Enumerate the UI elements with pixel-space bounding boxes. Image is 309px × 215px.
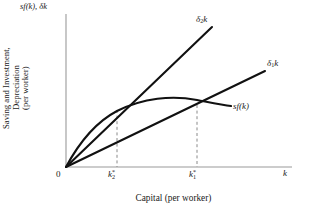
delta2-k-suffix: k bbox=[203, 14, 207, 24]
y-axis-title: Saving and Investment,Depreciation(per w… bbox=[2, 28, 16, 148]
tick-k1-affixes: *1 bbox=[193, 169, 196, 181]
origin-label: 0 bbox=[56, 169, 61, 179]
y-axis-title-line-3: (per worker) bbox=[21, 28, 31, 148]
solow-growth-chart: sf(k), δk Saving and Investment,Deprecia… bbox=[0, 0, 309, 215]
curve-label-sfk: sf(k) bbox=[233, 101, 249, 111]
curve-label-delta2-k: δ2k bbox=[196, 14, 207, 25]
x-tick-label-k2-star: k*2 bbox=[108, 169, 115, 181]
delta2-k-line bbox=[66, 27, 212, 167]
tick-k2-subscript: 2 bbox=[112, 174, 115, 180]
tick-k1-subscript: 1 bbox=[193, 174, 196, 180]
tick-k2-affixes: *2 bbox=[112, 169, 115, 181]
sfk-curve bbox=[66, 98, 231, 167]
x-axis-title: Capital (per worker) bbox=[66, 193, 281, 203]
delta1-k-suffix: k bbox=[274, 58, 278, 68]
x-tick-label-k1-star: k*1 bbox=[189, 169, 196, 181]
delta1-k-line bbox=[66, 71, 265, 167]
x-axis-end-label: k bbox=[283, 168, 287, 178]
curve-label-delta1-k: δ1k bbox=[267, 58, 278, 69]
y-axis-top-label: sf(k), δk bbox=[20, 2, 47, 12]
chart-plot-area bbox=[0, 0, 309, 215]
